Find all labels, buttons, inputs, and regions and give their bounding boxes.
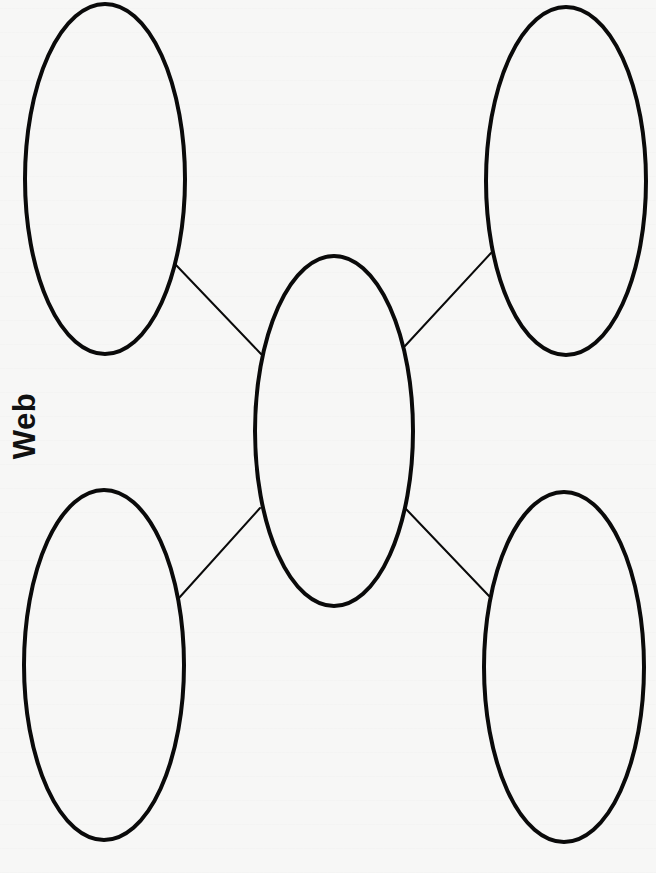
web-diagram [0,0,656,873]
worksheet-page: Web [0,0,656,873]
connector-bottom-right [406,509,489,596]
connector-top-right [405,253,491,346]
connector-top-left [176,265,261,354]
connector-bottom-left [179,508,260,598]
outer-node-bottom-right[interactable] [484,492,644,842]
outer-node-top-right[interactable] [486,7,646,355]
center-node[interactable] [255,256,413,606]
outer-node-top-left[interactable] [25,4,185,354]
page-title: Web [7,393,43,459]
outer-node-bottom-left[interactable] [24,490,184,840]
